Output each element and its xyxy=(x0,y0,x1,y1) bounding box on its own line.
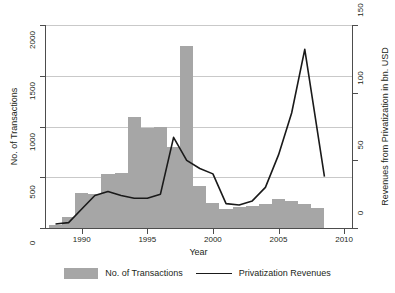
x-axis-tick xyxy=(279,229,280,234)
x-axis-tick xyxy=(82,229,83,234)
y-axis-right-title: Revenues from Privatization in bn. USD xyxy=(381,16,390,236)
x-axis-tick-label: 2000 xyxy=(193,236,233,244)
y-axis-left-tick-label: 1500 xyxy=(29,76,37,106)
y-axis-left-tick xyxy=(40,25,45,26)
y-axis-right-tick-label: 0 xyxy=(357,198,365,228)
y-axis-left-tick-label: 1000 xyxy=(29,127,37,157)
revenue-line-path xyxy=(56,49,325,224)
x-axis-tick-label: 2005 xyxy=(259,236,299,244)
x-axis-tick xyxy=(344,229,345,234)
chart-legend: No. of Transactions Privatization Revenu… xyxy=(0,262,395,284)
x-axis-tick xyxy=(147,229,148,234)
y-axis-right-tick-label: 50 xyxy=(357,130,365,160)
privatization-chart-figure: No. of Transactions Revenues from Privat… xyxy=(0,0,395,293)
x-axis-tick-label: 2010 xyxy=(324,236,364,244)
y-axis-right-tick-label: 100 xyxy=(357,63,365,93)
x-axis-tick-label: 1990 xyxy=(62,236,102,244)
legend-label-revenues: Privatization Revenues xyxy=(239,269,331,278)
plot-area xyxy=(45,25,352,228)
x-axis-title: Year xyxy=(139,248,259,257)
y-axis-right-tick xyxy=(353,160,358,161)
revenue-line-series xyxy=(45,25,352,228)
legend-item-transactions: No. of Transactions xyxy=(64,268,183,279)
y-axis-left-tick xyxy=(40,228,45,229)
bar-swatch-icon xyxy=(64,268,98,279)
legend-item-revenues: Privatization Revenues xyxy=(196,269,331,278)
y-axis-left-tick-label: 2000 xyxy=(29,25,37,55)
y-axis-left-tick xyxy=(40,76,45,77)
y-axis-left-tick-label: 0 xyxy=(29,228,37,258)
y-axis-right-tick xyxy=(353,228,358,229)
y-axis-right-tick-label: 150 xyxy=(357,0,365,25)
y-axis-left-title: No. of Transactions xyxy=(10,26,19,226)
y-axis-left-tick xyxy=(40,127,45,128)
y-axis-left-tick xyxy=(40,177,45,178)
line-swatch-icon xyxy=(196,273,232,274)
x-axis-tick-label: 1995 xyxy=(127,236,167,244)
y-axis-right-tick xyxy=(353,25,358,26)
y-axis-left-tick-label: 500 xyxy=(29,177,37,207)
y-axis-right-line xyxy=(352,25,353,229)
y-axis-left-line xyxy=(45,25,46,229)
x-axis-tick xyxy=(213,229,214,234)
legend-label-transactions: No. of Transactions xyxy=(105,269,183,278)
x-axis-line xyxy=(45,228,353,229)
